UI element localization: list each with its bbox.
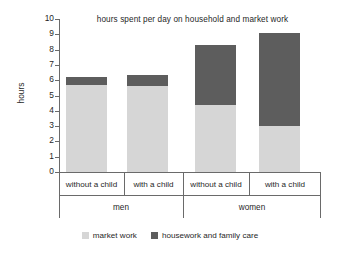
bar-segment-market-work — [127, 86, 168, 172]
bar-segment-housework-family-care — [195, 45, 236, 105]
legend-swatch-icon — [151, 232, 158, 239]
bar — [259, 33, 300, 172]
y-axis-tick-label: 4 — [30, 106, 54, 114]
bar-segment-market-work — [259, 126, 300, 172]
category-divider — [59, 172, 60, 196]
y-axis-tick-label: 3 — [30, 121, 54, 129]
bar-segment-housework-family-care — [66, 77, 107, 85]
y-axis-tick-label: 7 — [30, 60, 54, 68]
y-axis-tick-label: 10 — [30, 14, 54, 22]
legend-item: market work — [82, 231, 137, 240]
category-label: without a child — [59, 172, 124, 196]
group-label: women — [183, 196, 321, 218]
bar-segment-housework-family-care — [127, 75, 168, 86]
category-label: without a child — [183, 172, 249, 196]
y-axis-tick-label: 1 — [30, 152, 54, 160]
bar — [195, 45, 236, 172]
y-axis-tick-label: 9 — [30, 29, 54, 37]
chart-legend: market workhousework and family care — [0, 228, 340, 242]
group-label-row: menwomen — [59, 196, 321, 218]
group-label: men — [59, 196, 183, 218]
bar-segment-market-work — [195, 105, 236, 172]
category-label: with a child — [124, 172, 183, 196]
group-divider — [59, 196, 60, 218]
legend-item: housework and family care — [151, 231, 258, 240]
bar-segment-market-work — [66, 85, 107, 172]
bar — [127, 75, 168, 172]
bar-segment-housework-family-care — [259, 33, 300, 126]
y-axis-tick-label: 5 — [30, 91, 54, 99]
y-axis-tick-labels: 109876543210 — [30, 0, 54, 254]
plot-area — [59, 19, 321, 172]
category-label-row: without a childwith a childwithout a chi… — [59, 172, 321, 196]
y-axis-tick-label: 0 — [30, 167, 54, 175]
y-axis-tick-label: 6 — [30, 75, 54, 83]
group-divider — [183, 196, 184, 218]
category-divider — [124, 172, 125, 196]
category-divider — [183, 172, 184, 196]
category-divider — [320, 172, 321, 196]
y-axis-tick-label: 2 — [30, 136, 54, 144]
stacked-bar-chart: hours spent per day on household and mar… — [0, 0, 340, 254]
legend-label: market work — [93, 231, 137, 240]
bar — [66, 77, 107, 172]
category-label: with a child — [249, 172, 321, 196]
legend-label: housework and family care — [162, 231, 258, 240]
y-axis-label: hours — [16, 63, 26, 123]
category-divider — [249, 172, 250, 196]
y-axis-tick-label: 8 — [30, 45, 54, 53]
legend-swatch-icon — [82, 232, 89, 239]
group-divider — [320, 196, 321, 218]
